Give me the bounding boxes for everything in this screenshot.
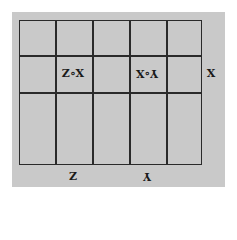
label-y-compose-x: Y∘X [136,67,158,80]
label-z-compose-x: Z∘X [62,67,84,80]
grid-hline-2 [19,92,202,94]
grid-hline-1 [19,55,202,57]
label-y-axis: Y [143,170,151,183]
label-z-axis: Z [69,170,77,183]
label-x-axis: X [207,67,216,80]
